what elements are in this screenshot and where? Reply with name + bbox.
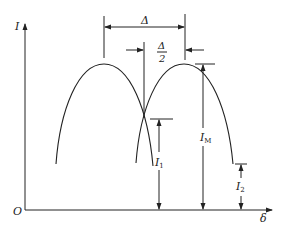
i1-label: I1 (154, 156, 164, 170)
delta-label: Δ (140, 14, 149, 27)
i2-label: I2 (235, 180, 245, 194)
left-curve (56, 64, 153, 166)
y-axis-label: I (14, 20, 20, 33)
im-label: IM (199, 131, 212, 145)
half-delta-numerator: Δ (157, 40, 165, 51)
half-delta-denominator: 2 (158, 53, 165, 64)
diagram-canvas: I O δ Δ Δ 2 IM I1 I2 (0, 0, 285, 232)
origin-label: O (13, 205, 22, 218)
x-axis-label: δ (260, 212, 267, 225)
